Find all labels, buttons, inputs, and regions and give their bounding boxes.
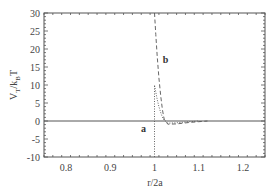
x-tick-label: 1.1 (192, 162, 205, 173)
y-axis: -10-5051015202530 (27, 8, 265, 163)
y-tick-label: 15 (30, 62, 40, 73)
y-tick-label: 10 (30, 80, 40, 91)
y-tick-label: 20 (30, 44, 40, 55)
x-tick-label: 0.9 (104, 162, 117, 173)
y-tick-label: -5 (32, 134, 40, 145)
x-tick-label: 1.2 (237, 162, 250, 173)
annotation-a: a (141, 123, 146, 134)
y-tick-label: -10 (27, 152, 40, 163)
y-tick-label: 30 (30, 8, 40, 19)
y-tick-label: 0 (35, 116, 40, 127)
y-axis-title: VT/kBT (8, 70, 22, 100)
series-b (155, 13, 208, 124)
y-tick-label: 25 (30, 26, 40, 37)
x-tick-label: 1 (152, 162, 157, 173)
plot-frame (44, 13, 265, 157)
chart: -10-5051015202530 0.80.911.11.2 ab r/2a … (0, 0, 277, 193)
annotation-b: b (163, 54, 169, 65)
x-axis-title: r/2a (147, 177, 163, 188)
x-tick-label: 0.8 (60, 162, 73, 173)
y-tick-label: 5 (35, 98, 40, 109)
series-group (155, 13, 208, 157)
